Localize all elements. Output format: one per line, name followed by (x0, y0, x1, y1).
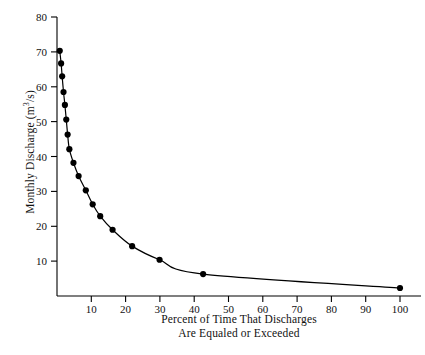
y-axis-tick-labels: 80 70 60 50 40 30 20 10 (36, 11, 48, 267)
data-point (397, 285, 403, 291)
y-tick-label: 40 (36, 151, 48, 163)
y-tick-label: 60 (36, 81, 48, 93)
data-point (109, 227, 115, 233)
data-point (129, 243, 135, 249)
y-axis-title: Monthly Discharge (m3/s) (22, 62, 36, 242)
data-point (59, 73, 65, 79)
flow-duration-chart: 80 70 60 50 40 30 20 10 10 20 30 40 (0, 0, 425, 355)
data-point (76, 173, 82, 179)
y-axis-title-prefix: Monthly Discharge (m (24, 106, 36, 214)
chart-canvas: 80 70 60 50 40 30 20 10 10 20 30 40 (0, 0, 425, 355)
data-point (156, 257, 162, 263)
y-tick-label: 70 (36, 46, 48, 58)
y-axis-title-exponent: 3 (22, 102, 31, 106)
data-point (63, 116, 69, 122)
x-axis-title-line1: Percent of Time That Discharges (57, 313, 421, 327)
x-axis-title: Percent of Time That Discharges Are Equa… (57, 313, 421, 340)
data-point (97, 213, 103, 219)
data-point-markers (57, 48, 403, 291)
data-point (58, 60, 64, 66)
y-axis-ticks (51, 17, 57, 261)
y-tick-label: 30 (36, 185, 48, 197)
data-point (200, 271, 206, 277)
y-tick-label: 50 (36, 116, 48, 128)
y-tick-label: 20 (36, 220, 48, 232)
data-point (62, 102, 68, 108)
x-axis-title-line2: Are Equaled or Exceeded (57, 327, 421, 341)
data-point (57, 48, 63, 54)
data-point (65, 131, 71, 137)
data-point (70, 160, 76, 166)
y-tick-label: 80 (36, 11, 48, 23)
data-point (60, 89, 66, 95)
data-curve (60, 51, 400, 288)
data-point (66, 146, 72, 152)
data-point (90, 201, 96, 207)
data-point (83, 187, 89, 193)
x-axis-ticks (91, 296, 400, 302)
y-axis-title-suffix: /s) (24, 90, 36, 102)
y-tick-label: 10 (36, 255, 48, 267)
